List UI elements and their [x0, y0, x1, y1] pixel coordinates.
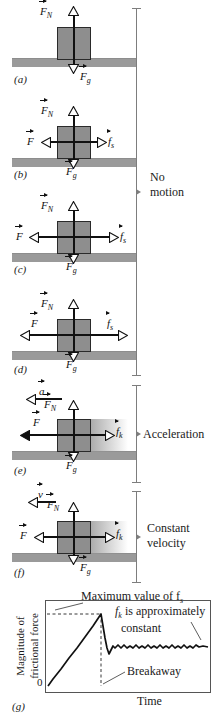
arrow-head-v-f [28, 497, 38, 508]
label-fk-e: fk [116, 425, 123, 440]
label-fg-a: Fg [80, 70, 91, 85]
arrow-head-fk-e [105, 430, 115, 441]
panel-e: FN Fg a F fk (e) [0, 385, 136, 485]
label-fg-b: Fg [66, 165, 77, 180]
arrow-shaft-a-e [34, 398, 62, 400]
bracket-nib-no-motion [136, 189, 141, 195]
arrow-head-fg-f [68, 555, 79, 565]
arrow-shaft-v-f [36, 501, 56, 503]
bracket-label-no-motion-line1: No [150, 170, 184, 185]
arrow-head-fn-c [68, 201, 79, 211]
label-fg-d: Fg [66, 358, 77, 373]
panel-d: FN Fg F fs (d) [0, 285, 136, 385]
panel-label-c: (c) [14, 263, 26, 275]
leader-breakaway [103, 672, 125, 684]
panel-label-f: (f) [14, 566, 24, 578]
arrow-head-fg-a [68, 64, 79, 74]
label-f-c: F [16, 230, 23, 242]
label-fg-f: Fg [80, 561, 91, 576]
bracket-label-constant-velocity: Constant velocity [147, 521, 190, 550]
panel-label-b: (b) [14, 168, 27, 180]
annotation-max-static-text: Maximum value of f [81, 589, 180, 603]
panel-a: FN Fg (a) [0, 0, 136, 95]
arrow-head-fn-e [68, 400, 79, 410]
panel-f: FN Fg v F fk (f) [0, 485, 136, 585]
label-fn-e: FN [44, 398, 56, 413]
arrow-shaft-f-c [37, 236, 74, 238]
arrow-head-fn-f [68, 502, 79, 512]
graph-ylabel-line1: Magnitude of [14, 616, 26, 676]
label-fn-b: FN [41, 104, 53, 119]
label-fn-d: FN [41, 297, 53, 312]
arrow-head-fn-a [68, 6, 79, 16]
arrow-head-fn-b [68, 106, 79, 116]
panel-c: FN Fg F fs (c) [0, 190, 136, 285]
arrow-shaft-fs-d [73, 334, 120, 336]
arrow-shaft-f-f [42, 536, 74, 538]
panel-label-g: (g) [12, 700, 25, 712]
arrow-head-f-b [41, 137, 51, 148]
bracket-cap-bottom-constant-velocity [132, 582, 141, 583]
bracket-label-acceleration-line1: Acceleration [143, 427, 204, 442]
arrow-head-f-e [20, 430, 30, 441]
label-fn-c: FN [41, 199, 53, 214]
bracket-nib-constant-velocity [136, 534, 141, 540]
panel-label-a: (a) [14, 73, 27, 85]
bracket-constant-velocity [132, 491, 142, 583]
arrow-head-fs-d [118, 330, 128, 341]
bracket-nib-acceleration [136, 431, 141, 437]
graph-ylabel-line2: frictional force [28, 613, 40, 679]
label-fg-e: Fg [66, 459, 77, 474]
friction-figure: FN Fg (a) FN Fg [0, 0, 216, 717]
bracket-acceleration [132, 385, 142, 483]
arrow-shaft-f-b [49, 141, 74, 143]
label-f-b: F [27, 135, 34, 147]
arrow-shaft-fk-f [73, 536, 107, 538]
label-a-e: a [39, 385, 45, 397]
label-f-f: F [20, 529, 27, 541]
bracket-label-no-motion-line2: motion [150, 185, 184, 200]
label-fs-b: fs [108, 135, 114, 150]
arrow-head-fk-f [105, 532, 115, 543]
friction-graph: Maximum value of fs fk is approximately … [45, 600, 211, 693]
arrow-shaft-fk-e [73, 434, 107, 436]
bracket-cap-bottom-no-motion [132, 375, 141, 376]
arrow-shaft-f-d [28, 334, 74, 336]
arrow-shaft-fs-b [73, 141, 99, 143]
bracket-label-constant-velocity-line2: velocity [147, 536, 190, 551]
graph-ylabel-2: frictional force [28, 600, 41, 692]
label-fs-d: fs [107, 317, 113, 332]
arrow-head-fn-d [68, 299, 79, 309]
panel-label-e: (e) [14, 464, 26, 476]
bracket-label-constant-velocity-line1: Constant [147, 521, 190, 536]
label-fs-c: fs [120, 230, 126, 245]
annotation-kinetic-line1: fk is approximately [115, 604, 205, 621]
leader-max-static [55, 603, 83, 610]
label-fn-a: FN [40, 5, 52, 20]
panel-b: FN Fg F fs (b) [0, 95, 136, 190]
arrow-head-f-c [29, 232, 39, 243]
label-f-e: F [33, 416, 40, 428]
arrow-shaft-f-e [28, 434, 74, 436]
arrow-head-fs-b [97, 137, 107, 148]
label-fg-c: Fg [66, 260, 77, 275]
arrow-shaft-fs-c [73, 236, 111, 238]
label-v-f: v [38, 488, 43, 500]
arrow-head-a-e [26, 394, 36, 405]
label-fk-f: fk [116, 527, 123, 542]
graph-xlabel: Time [137, 694, 162, 709]
arrow-head-f-d [20, 330, 30, 341]
arrow-head-f-f [34, 532, 44, 543]
graph-ylabel: Magnitude of [14, 600, 27, 692]
annotation-kinetic-rest: is approximately [122, 604, 205, 618]
bracket-no-motion [132, 8, 142, 376]
annotation-breakaway: Breakaway [127, 664, 181, 679]
annotation-kinetic-line2: constant [121, 621, 205, 636]
annotation-kinetic-constant: fk is approximately constant [115, 604, 205, 636]
bracket-cap-bottom-acceleration [132, 482, 141, 483]
panel-label-d: (d) [14, 363, 27, 375]
bracket-label-no-motion: No motion [150, 170, 184, 199]
bracket-label-acceleration: Acceleration [143, 427, 204, 442]
arrow-head-fs-c [109, 232, 119, 243]
label-f-d: F [31, 317, 38, 329]
